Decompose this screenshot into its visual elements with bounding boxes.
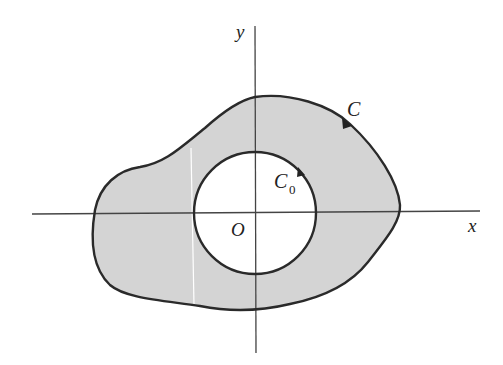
outer-curve-label: C: [347, 98, 361, 120]
origin-label: O: [231, 219, 245, 240]
x-axis-label: x: [467, 215, 477, 236]
inner-curve-label: C: [274, 170, 288, 192]
y-axis-label: y: [234, 21, 245, 42]
diagram-canvas: y x O C C 0: [0, 0, 503, 365]
inner-curve-subscript: 0: [289, 182, 296, 197]
